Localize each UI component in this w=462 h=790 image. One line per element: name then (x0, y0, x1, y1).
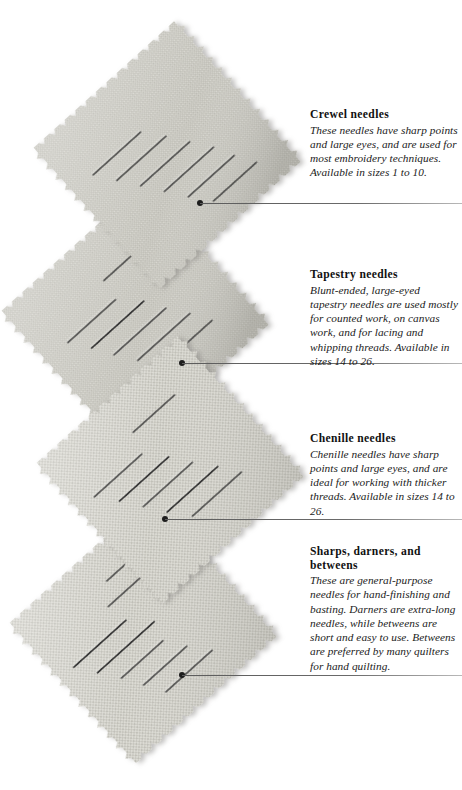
illustration-page: Crewel needles These needles have sharp … (0, 0, 462, 790)
leader-rule-chenille (165, 519, 462, 520)
caption-tapestry: Tapestry needles Blunt-ended, large-eyed… (310, 268, 458, 368)
caption-sharps: Sharps, darners, and betweens These are … (310, 545, 458, 673)
caption-body-sharps: These are general-purpose needles for ha… (310, 573, 458, 673)
caption-title-chenille: Chenille needles (310, 432, 458, 446)
caption-body-crewel: These needles have sharp points and larg… (310, 123, 458, 180)
caption-title-tapestry: Tapestry needles (310, 268, 458, 282)
caption-body-tapestry: Blunt-ended, large-eyed tapestry needles… (310, 283, 458, 369)
swatch-plate-svg (0, 0, 330, 790)
caption-title-crewel: Crewel needles (310, 108, 458, 122)
caption-body-chenille: Chenille needles have sharp points and l… (310, 447, 458, 518)
caption-crewel: Crewel needles These needles have sharp … (310, 108, 458, 180)
caption-title-sharps: Sharps, darners, and betweens (310, 545, 458, 572)
leader-rule-crewel (200, 203, 462, 204)
leader-rule-sharps (182, 675, 462, 676)
caption-chenille: Chenille needles Chenille needles have s… (310, 432, 458, 518)
fabric-needle-illustration (0, 0, 330, 790)
